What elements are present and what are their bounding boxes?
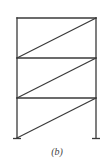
figure-caption: (b)	[0, 146, 107, 157]
brace-story-1	[17, 98, 96, 138]
frame-diagram	[0, 0, 107, 168]
brace-story-3	[17, 18, 96, 58]
brace-story-2	[17, 58, 96, 98]
